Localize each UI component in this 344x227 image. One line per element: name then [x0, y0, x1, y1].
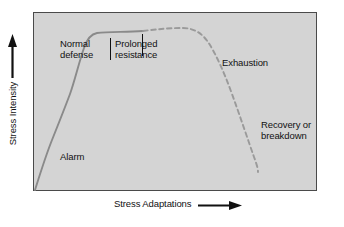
y-axis-group: Stress Intensity	[0, 30, 30, 190]
x-axis-label: Stress Adaptations	[114, 198, 191, 209]
right-arrow-icon	[198, 201, 242, 210]
annotation-normal-defense: Normal defense	[60, 39, 93, 60]
phase-divider-left	[110, 38, 111, 60]
annotation-prolonged-resistance: Prolonged resistance	[115, 39, 157, 60]
annotation-recovery-or-breakdown: Recovery or breakdown	[261, 120, 311, 141]
stress-response-figure: Normal defense Prolonged resistance Exha…	[0, 0, 344, 227]
annotation-alarm: Alarm	[60, 152, 84, 163]
y-axis-label: Stress Intensity	[7, 64, 18, 164]
annotation-exhaustion: Exhaustion	[222, 58, 268, 69]
